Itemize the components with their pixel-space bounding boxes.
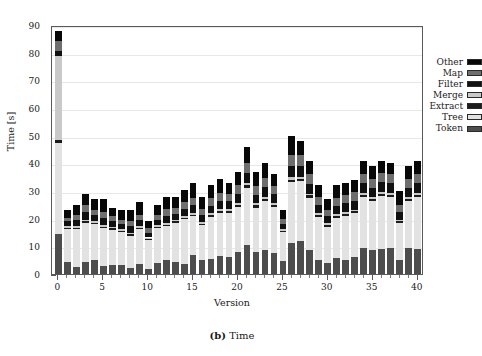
bar-segment-other-v8	[127, 210, 134, 220]
bar-segment-extract-v11	[154, 227, 161, 229]
bar-segment-other-v39	[405, 166, 412, 179]
bar-segment-tree-v21	[244, 188, 251, 245]
bar-segment-token-v0	[55, 234, 62, 274]
bar-segment-other-v37	[387, 163, 394, 174]
bar-segment-other-v20	[235, 172, 242, 186]
x-tick-label-40: 40	[411, 283, 422, 292]
x-tick-mark-39	[408, 275, 409, 278]
bar-segment-tree-v32	[342, 216, 349, 260]
x-tick-mark-37	[390, 275, 391, 278]
bar-segment-extract-v18	[217, 211, 224, 213]
legend-item-filter: Filter	[390, 79, 482, 89]
table-row	[73, 205, 80, 274]
bar-segment-map-v36	[378, 173, 385, 182]
bar-segment-tree-v5	[100, 228, 107, 265]
bar-segment-extract-v36	[378, 194, 385, 196]
bar-segment-other-v3	[82, 194, 89, 205]
bar-segment-token-v25	[280, 261, 287, 274]
bar-segment-merge-v23	[262, 197, 269, 199]
bar-segment-tree-v36	[378, 196, 385, 249]
bar-segment-merge-v1	[64, 226, 71, 228]
bar-segment-token-v27	[297, 241, 304, 274]
table-row	[208, 185, 215, 274]
bar-segment-token-v36	[378, 249, 385, 274]
bar-segment-filter-v9	[136, 220, 143, 226]
legend-swatch-token	[467, 126, 482, 132]
bar-segment-other-v0	[55, 31, 62, 42]
bar-segment-filter-v19	[226, 201, 233, 209]
bar-segment-tree-v29	[315, 217, 322, 260]
legend-swatch-other	[467, 59, 482, 65]
table-row	[414, 161, 421, 274]
bar-segment-tree-v1	[64, 229, 71, 262]
bar-segment-merge-v8	[127, 233, 134, 235]
x-tick-mark-5	[102, 275, 103, 280]
bar-segment-map-v31	[333, 198, 340, 206]
bar-segment-merge-v35	[369, 197, 376, 199]
bar-segment-map-v8	[127, 221, 134, 227]
bar-segment-extract-v1	[64, 228, 71, 230]
bar-segment-other-v9	[136, 202, 143, 214]
x-tick-mark-28	[309, 275, 310, 278]
y-tick-label-0: 0	[34, 271, 40, 280]
x-tick-mark-33	[354, 275, 355, 278]
bar-segment-map-v22	[253, 186, 260, 194]
bar-segment-other-v30	[324, 199, 331, 209]
bar-segment-extract-v3	[82, 221, 89, 223]
bar-segment-filter-v39	[405, 188, 412, 197]
bar-segment-extract-v34	[360, 195, 367, 197]
bar-segment-map-v23	[262, 178, 269, 187]
bar-segment-tree-v9	[136, 229, 143, 264]
bar-segment-filter-v32	[342, 203, 349, 212]
bar-segment-extract-v38	[396, 221, 403, 223]
bar-segment-extract-v4	[91, 223, 98, 225]
bar-segment-map-v19	[226, 194, 233, 201]
bar-segment-other-v21	[244, 147, 251, 163]
table-row	[333, 185, 340, 274]
bar-segment-token-v13	[172, 262, 179, 274]
x-tick-mark-8	[129, 275, 130, 278]
bar-segment-merge-v26	[288, 177, 295, 179]
x-tick-label-30: 30	[321, 283, 332, 292]
legend-label-map: Map	[443, 68, 463, 78]
bar-segment-tree-v12	[163, 226, 170, 259]
x-tick-mark-13	[174, 275, 175, 278]
bar-segment-merge-v19	[226, 209, 233, 211]
bar-segment-other-v23	[262, 163, 269, 178]
bar-segment-token-v7	[118, 265, 125, 274]
bar-segment-filter-v0	[55, 51, 62, 56]
bar-segment-merge-v21	[244, 183, 251, 185]
bar-segment-other-v26	[288, 136, 295, 155]
bar-segment-extract-v13	[172, 221, 179, 223]
bar-segment-map-v18	[217, 193, 224, 201]
table-row	[342, 183, 349, 274]
bar-segment-filter-v31	[333, 206, 340, 214]
legend-item-token: Token	[390, 123, 482, 133]
bar-segment-merge-v2	[73, 226, 80, 228]
bar-segment-filter-v34	[360, 183, 367, 193]
bar-segment-extract-v20	[235, 205, 242, 207]
bar-segment-other-v32	[342, 183, 349, 195]
bar-segment-extract-v6	[109, 228, 116, 230]
bar-segment-extract-v16	[199, 224, 206, 226]
bar-segment-merge-v6	[109, 227, 116, 229]
x-tick-mark-32	[345, 275, 346, 278]
table-row	[235, 172, 242, 274]
bar-segment-merge-v0	[55, 56, 62, 140]
bar-segment-filter-v20	[235, 194, 242, 203]
bar-segment-map-v0	[55, 41, 62, 50]
bar-segment-merge-v10	[145, 238, 152, 239]
legend-item-tree: Tree	[390, 112, 482, 122]
x-tick-mark-31	[336, 275, 337, 278]
bar-segment-filter-v2	[73, 220, 80, 226]
bar-segment-tree-v7	[118, 232, 125, 265]
table-row	[136, 202, 143, 274]
x-tick-mark-2	[75, 275, 76, 278]
table-row	[64, 210, 71, 274]
bar-segment-map-v14	[181, 202, 188, 209]
table-row	[262, 163, 269, 274]
table-row	[253, 172, 260, 274]
bar-segment-other-v14	[181, 190, 188, 202]
bar-segment-map-v21	[244, 163, 251, 173]
bar-segment-other-v24	[271, 174, 278, 186]
